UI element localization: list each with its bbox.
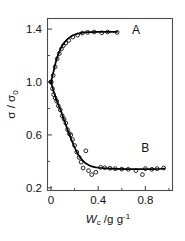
- figure-chart: 00.40.80.20.61.01.4ABWc /g g-1σ / σ0: [0, 0, 185, 241]
- annotation-A: A: [132, 23, 140, 37]
- data-point-B: [79, 160, 83, 164]
- y-tick-label: 1.0: [26, 76, 42, 88]
- data-point-B: [141, 173, 145, 177]
- annotation-B: B: [141, 141, 149, 155]
- data-point-B: [94, 170, 98, 174]
- y-label-symbol2: σ: [5, 95, 17, 102]
- y-label-subscript: 0: [11, 90, 20, 95]
- axes-box: [48, 19, 173, 191]
- y-label-separator: /: [5, 102, 17, 112]
- y-label-symbol: σ: [5, 112, 17, 119]
- x-tick-label: 0.4: [90, 194, 107, 206]
- tick-marks: [48, 29, 169, 190]
- x-tick-label: 0.8: [137, 194, 153, 206]
- curve-B: [51, 82, 164, 169]
- curve-A: [51, 32, 117, 82]
- data-point-B: [84, 149, 88, 153]
- chart-labels: 00.40.80.20.61.01.4ABWc /g g-1σ / σ0: [5, 23, 153, 227]
- y-tick-label: 1.4: [26, 23, 43, 35]
- plot-frame: [48, 19, 173, 191]
- data-point-B: [87, 169, 91, 173]
- x-label-rest: /g g: [101, 213, 123, 225]
- y-tick-label: 0.6: [26, 129, 42, 141]
- x-label-superscript: -1: [123, 212, 131, 221]
- data-point-B: [81, 166, 85, 170]
- data-point-B: [90, 173, 94, 177]
- y-axis-label: σ / σ0: [5, 90, 20, 119]
- chart-canvas: 00.40.80.20.61.01.4ABWc /g g-1σ / σ0: [0, 0, 185, 241]
- x-tick-label: 0: [48, 194, 54, 206]
- y-tick-label: 0.2: [26, 182, 42, 194]
- x-axis-label: Wc /g g-1: [86, 212, 131, 228]
